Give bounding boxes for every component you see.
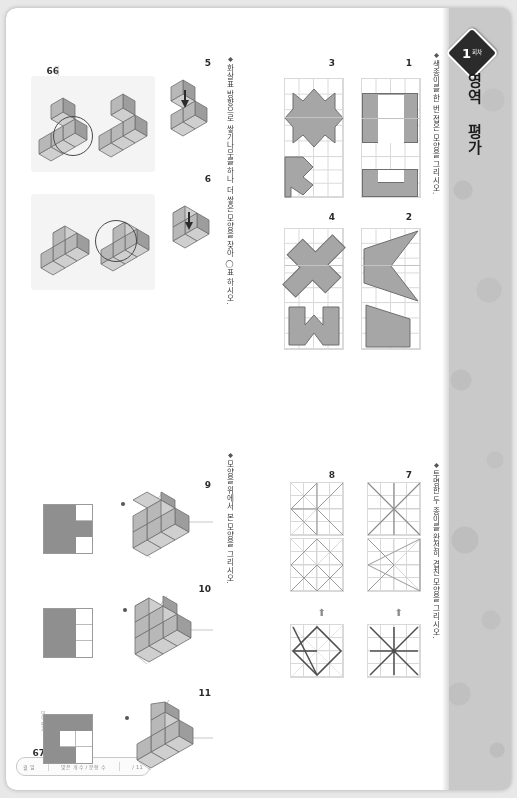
question-number: 2 bbox=[406, 212, 412, 222]
overlay-q7-sheet-a bbox=[367, 482, 421, 536]
fold-q1-fold-line bbox=[362, 118, 420, 119]
overlay-q8-sheet-b-lines bbox=[291, 539, 343, 591]
grid-cell bbox=[59, 520, 76, 537]
fold-q1-shape-notch bbox=[378, 95, 404, 143]
fold-q4-result-shape bbox=[285, 303, 343, 349]
grid-cell bbox=[75, 730, 92, 747]
stack-q10-figure bbox=[103, 596, 213, 666]
grid-cell bbox=[75, 536, 92, 553]
scanned-page-viewer: 월 일 맞은 개수 / 문항 수 / 11 1 회차 영역 평가 66 영역평가… bbox=[0, 0, 517, 798]
stack-q9-figure bbox=[103, 492, 213, 562]
fold-q2-shape bbox=[362, 229, 420, 303]
grid-cell bbox=[59, 746, 76, 763]
fold-q4-shape bbox=[285, 229, 343, 303]
overlay-q7-sheet-b-lines bbox=[368, 539, 420, 591]
grid-cell bbox=[44, 505, 60, 521]
section-overlay: 투명한 두 종이를 완전히 겹친 모양을 그리시오. bbox=[419, 465, 449, 650]
session-badge-number: 1 bbox=[462, 47, 471, 60]
overlay-q7-sheet-a-lines bbox=[368, 483, 420, 535]
stack-q6-options-panel bbox=[31, 194, 155, 290]
section-fold-instruction: 색종이를 한 번 접은 모양을 그리시오. bbox=[430, 60, 441, 270]
overlay-q8-sheet-a bbox=[290, 482, 344, 536]
fold-q1-left-grid bbox=[361, 78, 421, 158]
grid-cell bbox=[75, 609, 92, 625]
isometric-cube-group bbox=[103, 492, 213, 562]
answer-circle-mark bbox=[95, 220, 137, 262]
grid-cell bbox=[44, 624, 60, 641]
question-number: 6 bbox=[205, 174, 211, 184]
grid-cell bbox=[75, 746, 92, 763]
fold-q2-result-shape bbox=[362, 303, 420, 349]
overlay-q8-answer bbox=[290, 624, 344, 678]
grid-cell bbox=[59, 536, 76, 553]
fold-q3-result-shape bbox=[285, 157, 343, 197]
stack-q5-options-panel bbox=[31, 76, 155, 172]
page-sheet: 월 일 맞은 개수 / 문항 수 / 11 1 회차 영역 평가 66 영역평가… bbox=[6, 8, 511, 790]
session-badge-inner: 1 회차 bbox=[455, 36, 489, 70]
grid-cell bbox=[44, 746, 60, 763]
stack-q11-figure bbox=[103, 700, 213, 772]
stack-q5-prompt bbox=[163, 80, 215, 142]
grid-cell bbox=[75, 624, 92, 641]
fold-q1-right-grid bbox=[361, 156, 421, 198]
session-badge-unit: 회차 bbox=[472, 50, 482, 56]
fold-q2-right-grid bbox=[361, 302, 421, 350]
overlay-q8-sheet-b bbox=[290, 538, 344, 592]
grid-cell bbox=[44, 536, 60, 553]
grid-cell bbox=[75, 520, 92, 537]
section-stack-view-instruction: 모양을 위에서 본 모양을 그리시오. bbox=[224, 460, 235, 660]
fold-q3-right-grid bbox=[284, 156, 344, 198]
section-stack-circle: 화살표 방향으로 쌓기나무를 하나 더 쌓은 모양을 찾아 ◯표 하시오. bbox=[213, 60, 243, 300]
arrow-up-icon: ⬆ bbox=[395, 607, 403, 618]
grid-cell bbox=[44, 730, 60, 747]
grid-cell bbox=[59, 505, 76, 521]
section-stack-circle-instruction: 화살표 방향으로 쌓기나무를 하나 더 쌓은 모양을 찾아 ◯표 하시오. bbox=[224, 64, 235, 300]
overlay-q7-answer-lines bbox=[368, 625, 420, 677]
stack-q10-top-view-grid bbox=[43, 608, 93, 658]
fold-q4-left-grid bbox=[284, 228, 344, 304]
grid-cell bbox=[59, 640, 76, 657]
answer-circle-mark bbox=[53, 116, 93, 156]
fold-q2-left-grid bbox=[361, 228, 421, 304]
question-number: 8 bbox=[329, 470, 335, 480]
grid-cell bbox=[59, 730, 76, 747]
grid-cell bbox=[75, 640, 92, 657]
stack-q9-top-view-grid bbox=[43, 504, 93, 554]
question-number: 10 bbox=[198, 584, 211, 594]
grid-cell bbox=[44, 609, 60, 625]
question-number: 9 bbox=[205, 480, 211, 490]
fold-q3-left-grid bbox=[284, 78, 344, 158]
question-number: 4 bbox=[329, 212, 335, 222]
isometric-cube-group bbox=[163, 80, 215, 142]
grid-cell bbox=[44, 640, 60, 657]
question-number: 3 bbox=[329, 58, 335, 68]
header-tab-item-0: 월 일 bbox=[23, 763, 35, 770]
section-stack-view: 모양을 위에서 본 모양을 그리시오. bbox=[213, 455, 243, 660]
question-number: 1 bbox=[406, 58, 412, 68]
fold-q3-fold-line bbox=[285, 117, 343, 118]
grid-cell bbox=[59, 624, 76, 641]
isometric-cube-group bbox=[163, 196, 215, 258]
overlay-q7-answer bbox=[367, 624, 421, 678]
section-fold: 색종이를 한 번 접은 모양을 그리시오. bbox=[419, 55, 449, 270]
isometric-cube-options bbox=[31, 76, 155, 172]
grid-cell bbox=[44, 520, 60, 537]
stack-q6-prompt bbox=[163, 196, 215, 258]
question-number: 11 bbox=[198, 688, 211, 698]
fold-q4-right-grid bbox=[284, 302, 344, 350]
grid-cell bbox=[59, 715, 76, 731]
isometric-cube-group bbox=[103, 700, 213, 772]
question-number: 5 bbox=[205, 58, 211, 68]
page-title: 영역 평가 bbox=[469, 73, 485, 156]
rotated-page-canvas: 월 일 맞은 개수 / 문항 수 / 11 1 회차 영역 평가 66 영역평가… bbox=[0, 0, 517, 798]
overlay-q8-sheet-a-lines bbox=[291, 483, 343, 535]
fold-q3-shape bbox=[285, 79, 343, 157]
fold-q1-result-notch bbox=[378, 170, 404, 183]
fold-q2-fold-line bbox=[362, 265, 420, 266]
stack-q11-top-view-grid bbox=[43, 714, 93, 764]
overlay-q8-answer-lines bbox=[291, 625, 343, 677]
arrow-up-icon: ⬆ bbox=[318, 607, 326, 618]
header-tab-item-1: 맞은 개수 / 문항 수 bbox=[61, 763, 106, 770]
grid-cell bbox=[75, 505, 92, 521]
fold-q4-fold-line bbox=[285, 265, 343, 266]
